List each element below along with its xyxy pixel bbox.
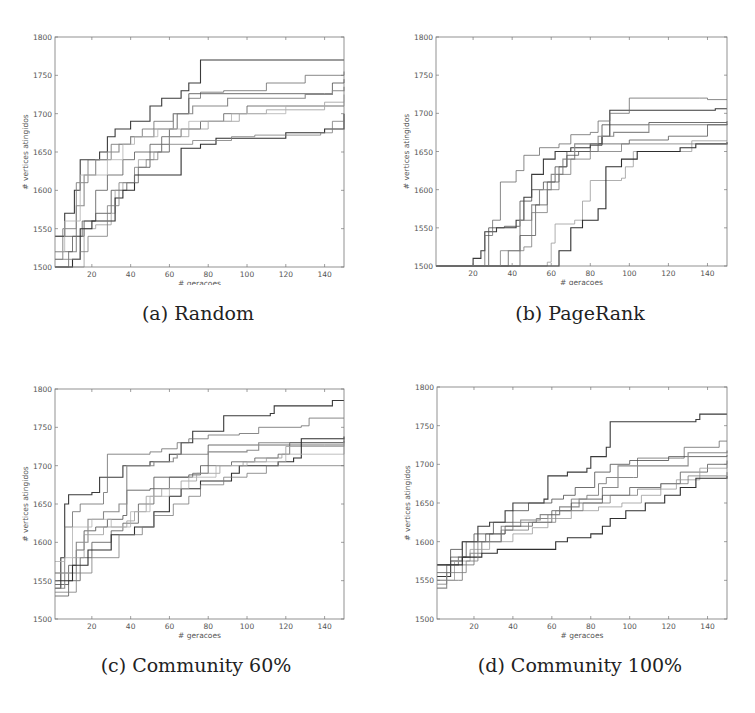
chart-community-100: 1500155016001650170017501800204060801001… <box>0 0 755 640</box>
y-tick-label: 1800 <box>415 383 434 392</box>
series-line <box>437 461 727 573</box>
series-line <box>437 464 727 580</box>
x-tick-label: 80 <box>586 622 596 631</box>
y-axis-label: # vertices atingidos <box>403 465 412 540</box>
x-tick-label: 100 <box>623 622 638 631</box>
x-tick-label: 20 <box>469 622 479 631</box>
y-tick-label: 1650 <box>415 499 434 508</box>
y-tick-label: 1600 <box>415 538 434 547</box>
y-tick-label: 1750 <box>415 422 434 431</box>
series-line <box>437 450 727 588</box>
y-tick-label: 1550 <box>415 576 434 585</box>
series-line <box>437 472 727 584</box>
x-axis-label: # geracoes <box>561 631 604 640</box>
series-line <box>437 414 727 576</box>
series-line <box>437 476 727 565</box>
caption-community-60: (c) Community 60% <box>101 654 292 676</box>
x-tick-label: 40 <box>508 622 518 631</box>
x-tick-label: 60 <box>547 622 557 631</box>
x-tick-label: 140 <box>700 622 715 631</box>
y-tick-label: 1700 <box>415 460 434 469</box>
y-tick-label: 1500 <box>415 615 434 624</box>
x-tick-label: 120 <box>661 622 676 631</box>
caption-community-100: (d) Community 100% <box>478 654 682 676</box>
